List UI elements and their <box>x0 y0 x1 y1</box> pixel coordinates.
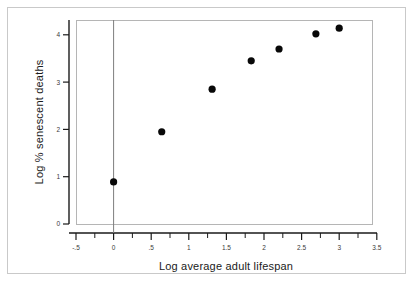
x-axis-tick-labels: -.5 0 .5 1 1.5 2 2.5 3 3.5 <box>72 244 381 251</box>
data-point <box>275 45 282 52</box>
y-tick-label-2: 2 <box>56 126 60 133</box>
x-tick-label-1: 0 <box>112 244 116 251</box>
figure-container: 0 1 2 3 4 <box>0 0 415 284</box>
data-point <box>110 178 117 185</box>
x-tick-label-3: 1 <box>187 244 191 251</box>
x-tick-label-2: .5 <box>148 244 154 251</box>
x-tick-label-6: 2.5 <box>297 244 306 251</box>
x-tick-label-4: 1.5 <box>222 244 231 251</box>
data-point <box>312 30 319 37</box>
y-axis-title: Log % senescent deaths <box>33 59 45 184</box>
data-point <box>158 128 165 135</box>
data-point <box>209 86 216 93</box>
x-tick-label-0: -.5 <box>72 244 80 251</box>
x-axis-major-ticks <box>76 233 377 240</box>
y-tick-label-4: 4 <box>56 31 60 38</box>
y-axis-ticks <box>63 35 69 224</box>
x-tick-label-8: 3.5 <box>372 244 381 251</box>
x-tick-label-7: 3 <box>337 244 341 251</box>
y-axis-tick-labels: 0 1 2 3 4 <box>56 31 60 227</box>
scatter-chart: 0 1 2 3 4 <box>0 0 415 284</box>
data-point-series <box>110 25 343 186</box>
x-tick-label-5: 2 <box>262 244 266 251</box>
x-axis-title: Log average adult lifespan <box>159 260 293 272</box>
y-tick-label-0: 0 <box>56 220 60 227</box>
y-tick-label-3: 3 <box>56 79 60 86</box>
data-point <box>248 57 255 64</box>
plot-panel-box <box>77 21 373 225</box>
y-tick-label-1: 1 <box>56 173 60 180</box>
data-point <box>336 25 343 32</box>
